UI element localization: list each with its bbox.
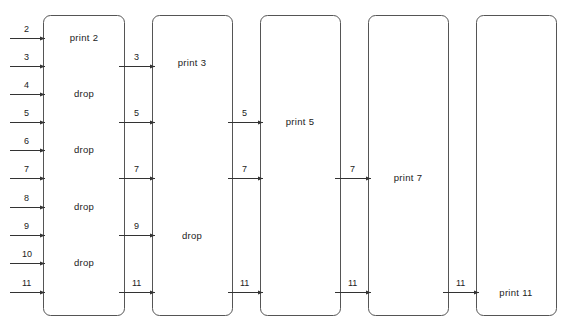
input-label: 10	[22, 249, 32, 259]
stage-1-inputs: 2 3 4 5 6 7 8 9 10 11	[10, 24, 45, 293]
action-label: print 7	[394, 172, 423, 183]
input-label: 7	[134, 164, 139, 174]
action-label: print 11	[499, 287, 532, 298]
input-label: 7	[350, 164, 355, 174]
stage-5-box	[477, 16, 557, 316]
input-label: 11	[348, 278, 357, 288]
stage-1-box	[44, 16, 125, 316]
input-label: 3	[134, 52, 139, 62]
input-label: 7	[242, 164, 247, 174]
input-label: 11	[22, 278, 31, 288]
input-label: 8	[24, 193, 29, 203]
action-label: drop	[74, 144, 94, 155]
stage-4-box	[369, 16, 449, 316]
input-label: 11	[240, 278, 249, 288]
sieve-diagram: 2 3 4 5 6 7 8 9 10 11 print 2 drop drop …	[0, 0, 565, 325]
stage-3-inputs: 5 7 11	[228, 108, 263, 293]
stage-4-actions: print 7	[394, 172, 423, 183]
input-label: 9	[134, 221, 139, 231]
stage-3-box	[261, 16, 341, 316]
stage-3-actions: print 5	[286, 116, 315, 127]
action-label: print 3	[178, 57, 207, 68]
action-label: drop	[182, 230, 202, 241]
input-label: 5	[24, 108, 29, 118]
input-label: 2	[24, 24, 29, 34]
input-label: 5	[134, 108, 139, 118]
input-label: 11	[456, 278, 465, 288]
action-label: print 5	[286, 116, 315, 127]
input-label: 7	[24, 164, 29, 174]
input-label: 11	[132, 278, 141, 288]
input-label: 5	[242, 108, 247, 118]
action-label: drop	[74, 88, 94, 99]
input-label: 4	[24, 80, 29, 90]
input-label: 3	[24, 52, 29, 62]
action-label: drop	[74, 201, 94, 212]
action-label: drop	[74, 257, 94, 268]
stage-5-actions: print 11	[499, 287, 532, 298]
input-label: 6	[24, 136, 29, 146]
input-label: 9	[24, 221, 29, 231]
action-label: print 2	[70, 32, 99, 43]
